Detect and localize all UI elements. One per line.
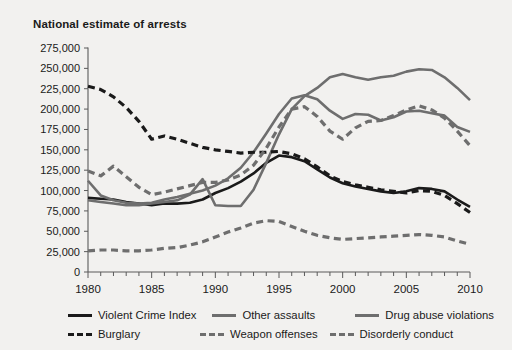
- chart-legend: Violent Crime IndexOther assaultsDrug ab…: [68, 306, 488, 344]
- legend-swatch-icon: [200, 333, 224, 336]
- y-axis-tick-label: 275,000: [40, 42, 80, 54]
- chart-container: National estimate of arrests 025,00050,0…: [0, 0, 512, 350]
- x-axis-tick-label: 2010: [457, 283, 483, 295]
- y-axis-tick-label: 250,000: [40, 62, 80, 74]
- y-axis-tick-label: 200,000: [40, 103, 80, 115]
- legend-item-disorderly-conduct[interactable]: Disorderly conduct: [330, 329, 454, 340]
- legend-label: Disorderly conduct: [360, 329, 454, 340]
- legend-label: Drug abuse violations: [385, 310, 494, 321]
- legend-swatch-icon: [355, 314, 379, 317]
- legend-row-1: Violent Crime IndexOther assaultsDrug ab…: [68, 306, 488, 325]
- x-axis-tick-label: 2005: [394, 283, 420, 295]
- x-axis-tick-label: 1980: [75, 283, 101, 295]
- y-axis-tick-label: 50,000: [46, 225, 80, 237]
- legend-label: Burglary: [98, 329, 140, 340]
- legend-swatch-icon: [212, 314, 236, 317]
- legend-swatch-icon: [68, 333, 92, 336]
- series-line-other-assaults: [88, 95, 470, 203]
- legend-row-2: BurglaryWeapon offensesDisorderly conduc…: [68, 325, 488, 344]
- x-axis-tick-label: 1995: [266, 283, 292, 295]
- legend-item-other-assaults[interactable]: Other assaults: [212, 310, 315, 321]
- series-line-disorderly-conduct: [88, 106, 470, 195]
- line-chart: 025,00050,00075,000100,000125,000150,000…: [0, 0, 512, 350]
- x-axis-tick-label: 1985: [139, 283, 165, 295]
- series-line-drug-abuse-violations: [88, 69, 470, 206]
- legend-item-violent-crime-index[interactable]: Violent Crime Index: [68, 310, 196, 321]
- legend-label: Weapon offenses: [230, 329, 318, 340]
- legend-item-weapon-offenses[interactable]: Weapon offenses: [200, 329, 318, 340]
- legend-swatch-icon: [330, 333, 354, 336]
- y-axis-tick-label: 150,000: [40, 144, 80, 156]
- legend-label: Other assaults: [242, 310, 315, 321]
- legend-item-drug-abuse-violations[interactable]: Drug abuse violations: [355, 310, 494, 321]
- y-axis-tick-label: 175,000: [40, 123, 80, 135]
- series-line-weapon-offenses: [88, 221, 470, 251]
- legend-swatch-icon: [68, 314, 92, 317]
- y-axis-tick-label: 0: [74, 266, 80, 278]
- x-axis-tick-label: 1990: [203, 283, 229, 295]
- legend-label: Violent Crime Index: [98, 310, 196, 321]
- x-axis-tick-label: 2000: [330, 283, 356, 295]
- series-line-burglary: [88, 86, 470, 212]
- y-axis-tick-label: 100,000: [40, 185, 80, 197]
- legend-item-burglary[interactable]: Burglary: [68, 329, 140, 340]
- y-axis-tick-label: 75,000: [46, 205, 80, 217]
- y-axis-tick-label: 225,000: [40, 83, 80, 95]
- series-line-violent-crime-index: [88, 156, 470, 207]
- y-axis-tick-label: 125,000: [40, 164, 80, 176]
- y-axis-tick-label: 25,000: [46, 246, 80, 258]
